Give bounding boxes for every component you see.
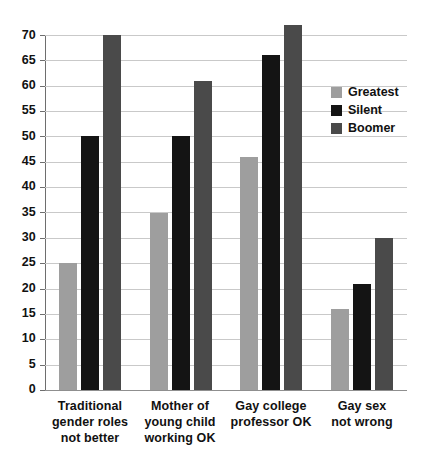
legend: Greatest Silent Boomer bbox=[331, 84, 423, 138]
category-label-line: working OK bbox=[135, 430, 225, 446]
legend-swatch-icon bbox=[331, 105, 342, 116]
bar-boomer bbox=[284, 25, 302, 390]
y-tick-label: 60 bbox=[2, 79, 36, 92]
y-tick-label: 5 bbox=[2, 358, 36, 371]
y-tick-label: 50 bbox=[2, 130, 36, 143]
category-label-line: Mother of bbox=[135, 398, 225, 414]
bar-silent bbox=[172, 136, 190, 390]
y-axis-tick-labels: 70 65 60 55 50 45 40 35 30 25 20 15 10 5… bbox=[0, 0, 36, 458]
bar-chart: 70 65 60 55 50 45 40 35 30 25 20 15 10 5… bbox=[0, 0, 429, 458]
category-label-line: gender roles bbox=[45, 414, 135, 430]
legend-label: Boomer bbox=[348, 122, 395, 135]
category-label: Traditional gender roles not better bbox=[45, 398, 135, 446]
bar-group bbox=[226, 35, 317, 390]
bar-silent bbox=[81, 136, 99, 390]
legend-swatch-icon bbox=[331, 87, 342, 98]
category-label-line: Traditional bbox=[45, 398, 135, 414]
category-label: Mother of young child working OK bbox=[135, 398, 225, 446]
bar-greatest bbox=[240, 157, 258, 390]
x-axis-baseline bbox=[45, 390, 407, 391]
y-tick-label: 10 bbox=[2, 332, 36, 345]
bar-boomer bbox=[103, 35, 121, 390]
bar-greatest bbox=[59, 263, 77, 390]
legend-item-greatest: Greatest bbox=[331, 84, 423, 100]
category-label-line: Gay sex bbox=[317, 398, 407, 414]
bar-greatest bbox=[150, 213, 168, 391]
y-tick-label: 65 bbox=[2, 54, 36, 67]
category-label-line: professor OK bbox=[225, 414, 317, 430]
category-label: Gay college professor OK bbox=[225, 398, 317, 430]
legend-item-silent: Silent bbox=[331, 102, 423, 118]
category-label-line: not better bbox=[45, 430, 135, 446]
y-tick-label: 35 bbox=[2, 206, 36, 219]
y-tick-label: 30 bbox=[2, 231, 36, 244]
bar-boomer bbox=[194, 81, 212, 390]
y-tick-label: 25 bbox=[2, 256, 36, 269]
y-tick-label: 55 bbox=[2, 104, 36, 117]
bar-silent bbox=[262, 55, 280, 390]
y-tick-label: 0 bbox=[2, 383, 36, 396]
y-tick-label: 45 bbox=[2, 155, 36, 168]
category-label-line: Gay college bbox=[225, 398, 317, 414]
bar-silent bbox=[353, 284, 371, 391]
category-label-line: not wrong bbox=[317, 414, 407, 430]
legend-swatch-icon bbox=[331, 123, 342, 134]
bar-boomer bbox=[375, 238, 393, 390]
bar-group bbox=[136, 35, 227, 390]
y-tick-label: 40 bbox=[2, 180, 36, 193]
legend-label: Greatest bbox=[348, 86, 399, 99]
bar-group bbox=[45, 35, 136, 390]
y-tick-label: 15 bbox=[2, 307, 36, 320]
legend-label: Silent bbox=[348, 104, 382, 117]
y-tick-label: 70 bbox=[2, 29, 36, 42]
category-label: Gay sex not wrong bbox=[317, 398, 407, 430]
category-label-line: young child bbox=[135, 414, 225, 430]
bar-greatest bbox=[331, 309, 349, 390]
y-tick-label: 20 bbox=[2, 282, 36, 295]
legend-item-boomer: Boomer bbox=[331, 120, 423, 136]
